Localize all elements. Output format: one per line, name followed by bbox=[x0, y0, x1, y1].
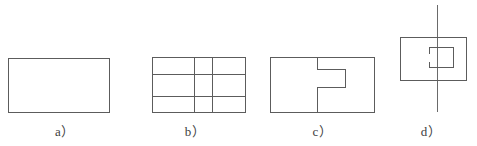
figure-plate: a） b） c） d） bbox=[0, 0, 477, 146]
rectangle-face bbox=[152, 57, 246, 113]
rectangle-face bbox=[400, 37, 467, 81]
figure-d: d） bbox=[385, 0, 477, 146]
figure-b-caption: b） bbox=[130, 121, 260, 140]
figure-b: b） bbox=[130, 0, 260, 146]
figure-a-caption: a） bbox=[0, 121, 130, 140]
rectangle-face bbox=[8, 58, 110, 113]
figure-c-caption: c） bbox=[260, 121, 385, 140]
figure-c: c） bbox=[260, 0, 385, 146]
rectangle-face bbox=[270, 57, 375, 113]
figure-a: a） bbox=[0, 0, 130, 146]
figure-d-caption: d） bbox=[385, 121, 477, 140]
